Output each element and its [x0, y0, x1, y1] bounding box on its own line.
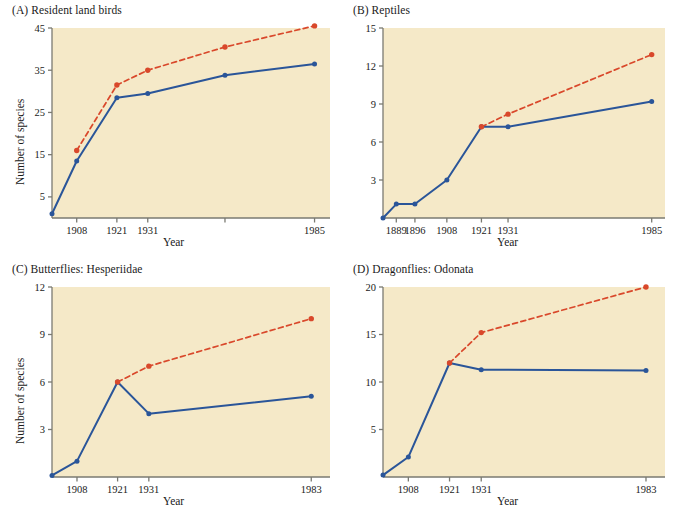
panel-a-x-axis-label: Year — [163, 236, 184, 248]
y-axis-tick-label: 25 — [35, 107, 46, 118]
data-point-observed[interactable] — [506, 124, 511, 129]
data-point-observed[interactable] — [643, 368, 648, 373]
x-axis-tick-label: 1985 — [641, 225, 662, 236]
data-point-cumulative[interactable] — [146, 363, 151, 368]
x-axis-tick-label: 1983 — [301, 484, 322, 495]
y-axis-tick-label: 3 — [371, 175, 376, 186]
y-axis-tick-label: 12 — [35, 282, 46, 293]
plot-background — [52, 287, 330, 477]
data-point-observed[interactable] — [406, 455, 411, 460]
y-axis-tick-label: 45 — [35, 23, 46, 34]
x-axis-tick-label: 1908 — [66, 225, 87, 236]
data-point-observed[interactable] — [394, 202, 399, 207]
panel-c: (C) Butterflies: Hesperiidae Number of s… — [0, 259, 336, 517]
y-axis-tick-label: 9 — [371, 99, 376, 110]
x-axis-tick-label: 1983 — [635, 484, 656, 495]
panel-a: (A) Resident land birds Number of specie… — [0, 0, 336, 258]
data-point-cumulative[interactable] — [312, 23, 317, 28]
panel-b-x-axis-label: Year — [497, 236, 518, 248]
data-point-cumulative[interactable] — [74, 148, 79, 153]
y-axis-tick-label: 15 — [366, 329, 377, 340]
y-axis-tick-label: 15 — [35, 149, 46, 160]
data-point-observed[interactable] — [74, 459, 79, 464]
x-axis-tick-label: 1931 — [137, 225, 158, 236]
y-axis-tick-label: 6 — [371, 137, 376, 148]
data-point-cumulative[interactable] — [309, 316, 314, 321]
y-axis-tick-label: 6 — [40, 377, 45, 388]
data-point-observed[interactable] — [381, 473, 386, 478]
data-point-cumulative[interactable] — [222, 44, 227, 49]
x-axis-tick-label: 1896 — [404, 225, 425, 236]
data-point-observed[interactable] — [479, 367, 484, 372]
y-axis-tick-label: 15 — [366, 23, 377, 34]
x-axis-tick-label: 1921 — [439, 484, 460, 495]
data-point-cumulative[interactable] — [115, 379, 120, 384]
data-point-observed[interactable] — [50, 473, 55, 478]
data-point-cumulative[interactable] — [505, 111, 510, 116]
x-axis-tick-label: 1931 — [138, 484, 159, 495]
panel-d-plot: 51015201908192119311983 — [337, 259, 673, 517]
data-point-observed[interactable] — [50, 211, 55, 216]
panel-c-x-axis-label: Year — [163, 495, 184, 507]
data-point-cumulative[interactable] — [649, 52, 654, 57]
y-axis-tick-label: 3 — [40, 424, 45, 435]
data-point-cumulative[interactable] — [479, 330, 484, 335]
plot-background — [383, 287, 665, 477]
y-axis-tick-label: 5 — [40, 191, 45, 202]
y-axis-tick-label: 12 — [366, 61, 377, 72]
x-axis-tick-label: 1921 — [106, 225, 127, 236]
x-axis-tick-label: 1908 — [66, 484, 87, 495]
panel-c-plot: 369121908192119311983 — [0, 259, 336, 517]
y-axis-tick-label: 5 — [371, 424, 376, 435]
panel-a-plot: 5152535451908192119311985 — [0, 0, 336, 258]
panel-d-x-axis-label: Year — [497, 495, 518, 507]
data-point-observed[interactable] — [381, 216, 386, 221]
data-point-observed[interactable] — [649, 99, 654, 104]
y-axis-tick-label: 9 — [40, 329, 45, 340]
figure-container: (A) Resident land birds Number of specie… — [0, 0, 673, 517]
data-point-observed[interactable] — [74, 159, 79, 164]
data-point-observed[interactable] — [444, 178, 449, 183]
data-point-observed[interactable] — [145, 91, 150, 96]
data-point-observed[interactable] — [222, 73, 227, 78]
data-point-cumulative[interactable] — [447, 360, 452, 365]
data-point-observed[interactable] — [309, 394, 314, 399]
data-point-observed[interactable] — [412, 202, 417, 207]
x-axis-tick-label: 1985 — [304, 225, 325, 236]
x-axis-tick-label: 1921 — [471, 225, 492, 236]
data-point-cumulative[interactable] — [643, 284, 648, 289]
x-axis-tick-label: 1908 — [398, 484, 419, 495]
data-point-observed[interactable] — [312, 61, 317, 66]
y-axis-tick-label: 10 — [366, 377, 377, 388]
y-axis-tick-label: 35 — [35, 65, 46, 76]
x-axis-tick-label: 1908 — [436, 225, 457, 236]
panel-d: (D) Dragonflies: Odonata 510152019081921… — [337, 259, 673, 517]
x-axis-tick-label: 1921 — [107, 484, 128, 495]
panel-b-plot: 3691215188918961908192119311985 — [337, 0, 673, 258]
x-axis-tick-label: 1931 — [471, 484, 492, 495]
data-point-cumulative[interactable] — [114, 82, 119, 87]
data-point-cumulative[interactable] — [145, 68, 150, 73]
y-axis-tick-label: 20 — [366, 282, 377, 293]
x-axis-tick-label: 1931 — [498, 225, 519, 236]
data-point-cumulative[interactable] — [479, 124, 484, 129]
data-point-observed[interactable] — [146, 411, 151, 416]
panel-b: (B) Reptiles 369121518891896190819211931… — [337, 0, 673, 258]
data-point-observed[interactable] — [114, 95, 119, 100]
